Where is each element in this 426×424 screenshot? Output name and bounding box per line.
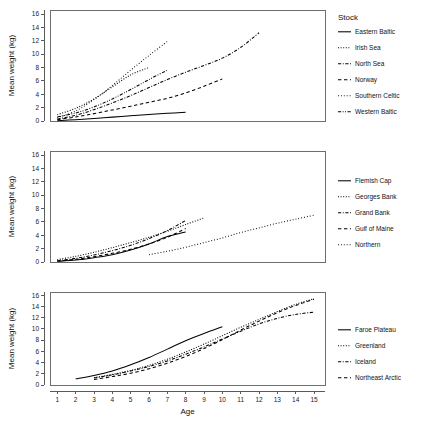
chart-panel-middle: 0246810121416Mean weight (kg)Flemish Cap…	[0, 141, 426, 282]
legend-item-label: Flemish Cap	[355, 177, 392, 185]
y-tick-label: 12	[32, 37, 40, 44]
series-line	[57, 218, 204, 260]
chart-svg-1: 0246810121416Mean weight (kg)Flemish Cap…	[0, 141, 426, 282]
legend-item-label: Western Baltic	[355, 108, 398, 115]
legend-item-label: Eastern Baltic	[355, 28, 396, 35]
legend: StockEastern BalticIrish SeaNorth SeaNor…	[338, 13, 400, 115]
y-tick-label: 2	[35, 245, 39, 252]
legend-item[interactable]: Irish Sea	[338, 44, 381, 51]
y-axis-title: Mean weight (kg)	[7, 307, 16, 369]
legend-item[interactable]: Eastern Baltic	[338, 28, 396, 35]
y-tick-label: 16	[32, 151, 40, 158]
legend-item[interactable]: Northern	[338, 241, 381, 248]
y-axis-title: Mean weight (kg)	[7, 34, 16, 96]
series-line	[57, 79, 222, 120]
y-tick-label: 16	[32, 292, 40, 299]
legend-item-label: Gulf of Maine	[355, 225, 394, 232]
x-tick-label: 7	[166, 396, 170, 403]
y-tick-label: 0	[35, 117, 39, 124]
legend-item-label: Grand Bank	[355, 209, 390, 216]
chart-panel-bottom: 0246810121416Mean weight (kg)12345678910…	[0, 282, 426, 424]
legend-item[interactable]: Norway	[338, 76, 378, 84]
x-tick-label: 10	[219, 396, 227, 403]
y-tick-label: 6	[35, 218, 39, 225]
series-line	[76, 327, 223, 379]
legend-item[interactable]: Gulf of Maine	[338, 225, 394, 232]
legend: Flemish CapGeorges BankGrand BankGulf of…	[338, 177, 397, 248]
y-tick-label: 6	[35, 348, 39, 355]
chart-svg-2: 0246810121416Mean weight (kg)12345678910…	[0, 282, 426, 424]
series-line	[57, 221, 185, 261]
y-tick-label: 10	[32, 325, 40, 332]
series-line	[57, 33, 259, 119]
legend-item[interactable]: Faroe Plateau	[338, 326, 396, 333]
x-tick-label: 1	[56, 396, 60, 403]
y-axis-title: Mean weight (kg)	[7, 175, 16, 237]
chart-panel-top: 0246810121416Mean weight (kg)StockEaster…	[0, 0, 426, 141]
y-tick-label: 16	[32, 10, 40, 17]
legend-item[interactable]: Flemish Cap	[338, 177, 392, 185]
y-tick-label: 12	[32, 314, 40, 321]
figure-root: 0246810121416Mean weight (kg)StockEaster…	[0, 0, 426, 424]
series-line	[57, 68, 149, 115]
legend-item-label: Irish Sea	[355, 44, 381, 51]
x-tick-label: 15	[310, 396, 318, 403]
legend-item-label: Northeast Arctic	[355, 374, 402, 381]
y-tick-label: 14	[32, 24, 40, 31]
legend-item-label: Norway	[355, 76, 378, 84]
series-group	[57, 215, 314, 261]
y-axis: 0246810121416	[32, 10, 44, 124]
legend-title: Stock	[338, 13, 359, 22]
y-tick-label: 2	[35, 104, 39, 111]
series-group	[76, 299, 314, 380]
legend-item[interactable]: Greenland	[338, 342, 386, 349]
x-axis-title: Age	[180, 407, 195, 416]
y-tick-label: 8	[35, 205, 39, 212]
legend-item[interactable]: Georges Bank	[338, 193, 397, 201]
plot-frame	[50, 292, 325, 385]
y-tick-label: 4	[35, 91, 39, 98]
plot-frame	[50, 10, 325, 121]
legend-item-label: Southern Celtic	[355, 92, 400, 99]
y-tick-label: 4	[35, 232, 39, 239]
x-tick-label: 4	[111, 396, 115, 403]
x-tick-label: 3	[92, 396, 96, 403]
x-tick-label: 13	[274, 396, 282, 403]
y-tick-label: 8	[35, 64, 39, 71]
x-tick-label: 9	[202, 396, 206, 403]
legend-item-label: Georges Bank	[355, 193, 397, 201]
y-tick-label: 8	[35, 336, 39, 343]
legend-item[interactable]: Western Baltic	[338, 108, 398, 115]
series-line	[94, 299, 314, 379]
y-tick-label: 0	[35, 381, 39, 388]
y-axis: 0246810121416	[32, 292, 44, 389]
x-tick-label: 2	[74, 396, 78, 403]
x-tick-label: 8	[184, 396, 188, 403]
legend-item-label: Iceland	[355, 358, 376, 365]
y-tick-label: 14	[32, 303, 40, 310]
legend-item-label: North Sea	[355, 60, 385, 67]
legend-item[interactable]: North Sea	[338, 60, 385, 67]
y-tick-label: 12	[32, 178, 40, 185]
y-tick-label: 2	[35, 370, 39, 377]
y-axis: 0246810121416	[32, 151, 44, 265]
series-line	[57, 232, 185, 261]
y-tick-label: 10	[32, 191, 40, 198]
y-tick-label: 0	[35, 258, 39, 265]
x-tick-label: 14	[292, 396, 300, 403]
x-tick-label: 6	[147, 396, 151, 403]
legend-item-label: Faroe Plateau	[355, 326, 396, 333]
series-group	[57, 33, 259, 121]
series-line	[57, 41, 167, 117]
x-tick-label: 12	[255, 396, 263, 403]
x-tick-label: 11	[237, 396, 244, 403]
legend-item-label: Northern	[355, 241, 381, 248]
legend-item-label: Greenland	[355, 342, 386, 349]
y-tick-label: 10	[32, 50, 40, 57]
legend-item[interactable]: Northeast Arctic	[338, 374, 402, 381]
legend-item[interactable]: Iceland	[338, 358, 376, 365]
legend-item[interactable]: Southern Celtic	[338, 92, 400, 99]
legend-item[interactable]: Grand Bank	[338, 209, 390, 216]
x-tick-label: 5	[129, 396, 133, 403]
legend: Faroe PlateauGreenlandIcelandNortheast A…	[338, 326, 402, 381]
